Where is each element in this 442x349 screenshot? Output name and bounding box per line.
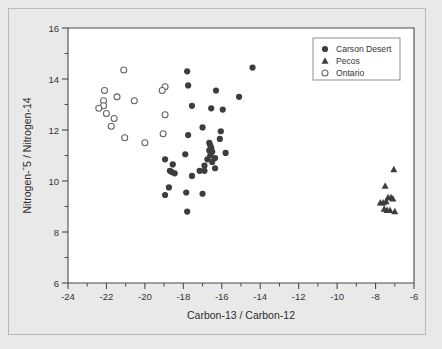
data-point bbox=[199, 191, 205, 197]
data-point bbox=[236, 94, 242, 100]
data-point bbox=[218, 128, 224, 134]
y-axis-title: Nitrogen-ˉ5 / Nitrogen-14 bbox=[21, 97, 33, 213]
data-point bbox=[213, 87, 219, 93]
x-tick-label: -6 bbox=[410, 291, 418, 302]
x-tick-label: -8 bbox=[371, 291, 379, 302]
data-point bbox=[184, 209, 190, 215]
data-point bbox=[162, 192, 168, 198]
figure-canvas: -24-22-20-18-16-14-12-10-8-66810121416Ca… bbox=[0, 0, 442, 349]
data-point bbox=[162, 112, 168, 118]
data-point bbox=[182, 151, 188, 157]
data-point bbox=[159, 87, 165, 93]
data-point bbox=[185, 82, 191, 88]
data-point bbox=[111, 116, 117, 122]
legend-label: Carson Desert bbox=[336, 44, 392, 54]
data-point bbox=[208, 105, 214, 111]
data-point bbox=[170, 161, 176, 167]
data-point bbox=[114, 94, 120, 100]
data-point bbox=[160, 131, 166, 137]
y-tick-label: 12 bbox=[48, 125, 59, 136]
legend: Carson DesertPecosOntario bbox=[313, 38, 400, 80]
data-point bbox=[217, 136, 223, 142]
x-tick-label: -12 bbox=[292, 291, 306, 302]
legend-label: Pecos bbox=[336, 56, 360, 66]
x-tick-label: -14 bbox=[253, 291, 267, 302]
y-tick-label: 6 bbox=[54, 278, 59, 289]
data-point bbox=[183, 189, 189, 195]
data-point bbox=[220, 107, 226, 113]
legend-marker-filled-circle-icon bbox=[322, 46, 328, 52]
data-point bbox=[131, 98, 137, 104]
y-tick-label: 10 bbox=[48, 176, 59, 187]
data-point bbox=[223, 150, 229, 156]
data-point bbox=[142, 140, 148, 146]
x-tick-label: -18 bbox=[176, 291, 190, 302]
data-point bbox=[212, 165, 218, 171]
data-point bbox=[162, 156, 168, 162]
data-point bbox=[122, 135, 128, 141]
x-tick-label: -24 bbox=[61, 291, 75, 302]
data-point bbox=[172, 170, 178, 176]
data-point bbox=[209, 159, 215, 165]
x-tick-label: -10 bbox=[330, 291, 344, 302]
y-tick-label: 8 bbox=[54, 227, 59, 238]
data-point bbox=[184, 68, 190, 74]
legend-label: Ontario bbox=[336, 68, 364, 78]
data-point bbox=[102, 87, 108, 93]
legend-marker-open-circle-icon bbox=[322, 70, 328, 76]
data-point bbox=[189, 173, 195, 179]
scatter-plot: -24-22-20-18-16-14-12-10-8-66810121416Ca… bbox=[0, 0, 442, 349]
y-tick-label: 14 bbox=[48, 74, 59, 85]
data-point bbox=[249, 64, 255, 70]
data-point bbox=[121, 67, 127, 73]
x-tick-label: -16 bbox=[215, 291, 229, 302]
data-point bbox=[96, 105, 102, 111]
data-point bbox=[199, 124, 205, 130]
data-point bbox=[189, 103, 195, 109]
x-tick-label: -20 bbox=[138, 291, 152, 302]
x-axis-title: Carbon-13 / Carbon-12 bbox=[187, 309, 295, 321]
y-tick-label: 16 bbox=[48, 23, 59, 34]
data-point bbox=[185, 132, 191, 138]
data-point bbox=[108, 123, 114, 129]
data-point bbox=[166, 184, 172, 190]
x-tick-label: -22 bbox=[100, 291, 114, 302]
data-point bbox=[201, 168, 207, 174]
data-point bbox=[103, 110, 109, 116]
